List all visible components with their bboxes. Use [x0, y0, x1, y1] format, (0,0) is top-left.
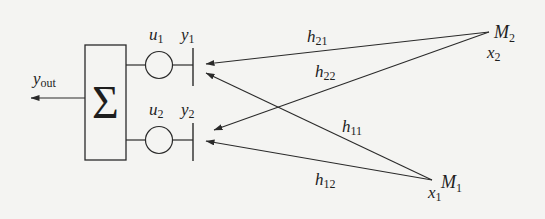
source-label-m2: M2 — [493, 22, 515, 45]
output-label: yout — [31, 69, 57, 90]
weight-node-u2 — [146, 127, 173, 154]
source-label-m1: M1 — [440, 172, 462, 195]
channel-h11-arrow — [206, 73, 432, 180]
weight-label-u1: u1 — [149, 25, 164, 46]
channel-label-h21: h21 — [307, 27, 328, 48]
branch-1 — [126, 48, 193, 86]
sigma-symbol: Σ — [92, 77, 119, 128]
signal-label-x1: x1 — [427, 183, 442, 204]
receiver-label-y2: y2 — [179, 100, 195, 121]
diagram-canvas: Σ yout u1 y1 u2 y2 h21 — [0, 0, 545, 219]
channel-h21-arrow — [206, 32, 489, 64]
channel-label-h12: h12 — [315, 170, 336, 191]
channel-label-h22: h22 — [315, 62, 336, 83]
channel-h22-arrow — [214, 32, 489, 130]
receiver-label-y1: y1 — [179, 25, 195, 46]
channel-label-h11: h11 — [342, 117, 362, 138]
weight-node-u1 — [146, 52, 173, 79]
summer-block: Σ — [85, 45, 126, 160]
branch-2 — [126, 123, 193, 161]
signal-label-x2: x2 — [486, 43, 501, 64]
channel-arrows — [206, 32, 489, 180]
weight-label-u2: u2 — [149, 100, 164, 121]
